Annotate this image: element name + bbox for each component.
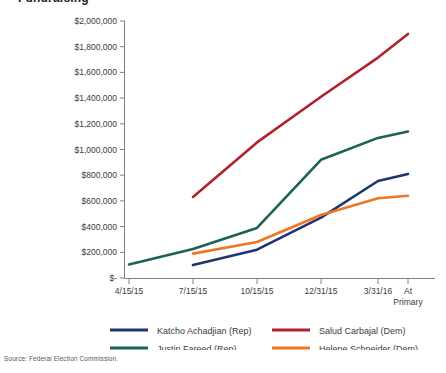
y-tick-label: $1,800,000 [74,42,117,52]
y-tick-label: $600,000 [82,196,118,206]
y-tick-label: $2,000,000 [74,16,117,26]
fundraising-line-chart: Fundraising $2,000,000$1,800,000$1,600,0… [0,0,446,373]
y-tick-label: $1,400,000 [74,93,117,103]
y-tick-label: $800,000 [82,170,118,180]
legend-label: Justin Fareed (Rep) [157,344,237,351]
y-axis: $2,000,000$1,800,000$1,600,000$1,400,000… [74,16,125,283]
series-group [129,34,408,265]
x-tick-group: 4/15/157/15/1510/15/1512/31/153/31/16AtP… [115,278,424,307]
series-line [193,34,408,197]
y-tick-label: $1,200,000 [74,119,117,129]
series-line [193,174,408,265]
source-note: Source: Federal Election Commission. [4,355,118,362]
legend-label: Katcho Achadjian (Rep) [157,326,252,336]
x-tick-label: Primary [393,297,423,307]
x-axis: 4/15/157/15/1510/15/1512/31/153/31/16AtP… [115,278,435,307]
y-tick-label: $200,000 [82,247,118,257]
x-tick-label: At [404,286,413,296]
series-line [193,196,408,254]
x-tick-label: 7/15/15 [179,286,208,296]
y-tick-label: $- [109,273,117,283]
x-tick-label: 4/15/15 [115,286,144,296]
chart-canvas: $2,000,000$1,800,000$1,600,000$1,400,000… [0,0,446,350]
chart-legend: Katcho Achadjian (Rep)Salud Carbajal (De… [110,326,418,351]
y-tick-label: $1,600,000 [74,67,117,77]
legend-label: Helene Schneider (Dem) [319,344,418,351]
x-tick-label: 12/31/15 [304,286,337,296]
y-tick-label: $1,000,000 [74,145,117,155]
y-tick-group: $2,000,000$1,800,000$1,600,000$1,400,000… [74,16,125,283]
y-tick-label: $400,000 [82,222,118,232]
x-tick-label: 3/31/16 [364,286,393,296]
legend-label: Salud Carbajal (Dem) [319,326,406,336]
x-tick-label: 10/15/15 [240,286,273,296]
